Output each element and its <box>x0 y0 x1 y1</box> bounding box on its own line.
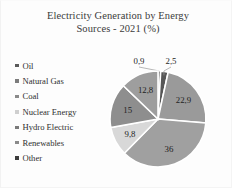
legend-item-hydro-electric[interactable]: Hydro Electric <box>15 120 107 135</box>
page-title: Electricity Generation by Energy Sources… <box>27 9 209 35</box>
legend-item-renewables[interactable]: Renewables <box>15 135 107 150</box>
pie-slice-label-hydro-electric: 9,8 <box>124 129 135 139</box>
legend-swatch-icon <box>15 141 19 145</box>
chart-title-line-1: Electricity Generation by Energy <box>27 9 209 22</box>
chart-legend: OilNatural GasCoalNuclear EnergyHydro El… <box>15 58 107 166</box>
legend-item-label: Natural Gas <box>23 76 64 86</box>
legend-item-label: Other <box>23 153 43 163</box>
legend-item-label: Hydro Electric <box>23 122 74 132</box>
pie-chart-svg <box>109 57 227 179</box>
legend-item-coal[interactable]: Coal <box>15 89 107 104</box>
pie-slice-callout-label-oil: 0,9 <box>134 56 145 66</box>
legend-item-label: Oil <box>23 61 34 71</box>
legend-item-label: Renewables <box>23 138 65 148</box>
chart-container: Electricity Generation by Energy Sources… <box>0 0 232 188</box>
pie-slice-label-other: 12,8 <box>138 85 153 95</box>
legend-swatch-icon <box>15 126 19 130</box>
legend-item-label: Coal <box>23 91 39 101</box>
legend-swatch-icon <box>15 64 19 68</box>
legend-item-label: Nuclear Energy <box>23 107 77 117</box>
chart-title-line-2: Sources - 2021 (%) <box>27 22 209 35</box>
legend-swatch-icon <box>15 110 19 114</box>
legend-item-other[interactable]: Other <box>15 150 107 165</box>
pie-slice-label-coal: 22,9 <box>176 95 191 105</box>
legend-swatch-icon <box>15 95 19 99</box>
legend-swatch-icon <box>15 79 19 83</box>
pie-slice-callout-label-natural-gas: 2,5 <box>166 56 177 66</box>
legend-item-nuclear-energy[interactable]: Nuclear Energy <box>15 104 107 119</box>
pie-slice-label-renewables: 15 <box>123 105 132 115</box>
legend-item-oil[interactable]: Oil <box>15 58 107 73</box>
pie-chart: 0,92,522,9369,81512,8 <box>109 57 227 179</box>
pie-slice-label-nuclear-energy: 36 <box>165 144 174 154</box>
legend-item-natural-gas[interactable]: Natural Gas <box>15 73 107 88</box>
legend-swatch-icon <box>15 156 19 160</box>
